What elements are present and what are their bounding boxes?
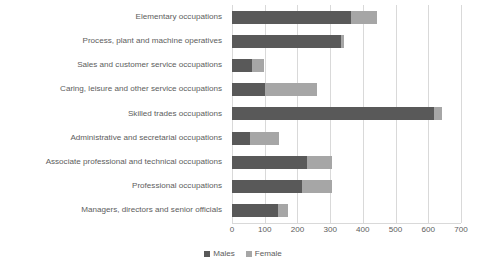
bar-segment-female[interactable] xyxy=(252,59,264,72)
x-axis-tick-labels: 0100200300400500600700 xyxy=(232,225,461,239)
bar-track xyxy=(232,59,461,72)
bar-segment-males[interactable] xyxy=(232,11,351,24)
category-label: Process, plant and machine operatives xyxy=(83,29,222,53)
plot-area xyxy=(232,5,461,223)
bar-track xyxy=(232,11,461,24)
bar-segment-males[interactable] xyxy=(232,35,341,48)
x-tick-label-100: 100 xyxy=(258,225,272,234)
x-tick-label-600: 600 xyxy=(422,225,436,234)
bar-track xyxy=(232,180,461,193)
bar-segment-female[interactable] xyxy=(302,180,332,193)
x-tick-label-400: 400 xyxy=(356,225,370,234)
bar-segment-female[interactable] xyxy=(278,204,288,217)
bar-row xyxy=(232,150,461,174)
bar-track xyxy=(232,107,461,120)
bar-row xyxy=(232,126,461,150)
bar-row xyxy=(232,78,461,102)
x-tick-label-700: 700 xyxy=(454,225,468,234)
bar-row xyxy=(232,175,461,199)
x-axis-line xyxy=(232,223,461,224)
category-label: Professional occupations xyxy=(132,175,222,199)
bar-segment-female[interactable] xyxy=(351,11,377,24)
bar-segment-males[interactable] xyxy=(232,156,307,169)
legend-item-males[interactable]: Males xyxy=(204,249,235,258)
x-tick-label-200: 200 xyxy=(291,225,305,234)
bar-row xyxy=(232,29,461,53)
category-axis-labels: Managers, directors and senior officials… xyxy=(0,5,228,223)
legend-label: Males xyxy=(213,249,235,258)
bar-track xyxy=(232,204,461,217)
bar-segment-males[interactable] xyxy=(232,180,302,193)
legend-label: Female xyxy=(255,249,282,258)
bar-track xyxy=(232,35,461,48)
bar-segment-males[interactable] xyxy=(232,107,434,120)
bar-row xyxy=(232,199,461,223)
category-label: Managers, directors and senior officials xyxy=(81,199,222,223)
bar-track xyxy=(232,156,461,169)
bar-segment-males[interactable] xyxy=(232,83,265,96)
bar-segment-female[interactable] xyxy=(341,35,344,48)
category-label: Sales and customer service occupations xyxy=(77,53,222,77)
bar-segment-female[interactable] xyxy=(265,83,317,96)
x-tick-label-500: 500 xyxy=(389,225,403,234)
female-swatch xyxy=(246,251,252,257)
x-tick-label-300: 300 xyxy=(323,225,337,234)
stacked-bar-chart: Managers, directors and senior officials… xyxy=(0,0,486,273)
x-tick-label-0: 0 xyxy=(230,225,235,234)
category-label: Elementary occupations xyxy=(136,5,222,29)
bar-segment-males[interactable] xyxy=(232,204,278,217)
legend-item-female[interactable]: Female xyxy=(246,249,282,258)
bar-segment-female[interactable] xyxy=(250,132,279,145)
bar-segment-males[interactable] xyxy=(232,59,252,72)
bar-row xyxy=(232,5,461,29)
bar-track xyxy=(232,132,461,145)
category-label: Administrative and secretarial occupatio… xyxy=(70,126,222,150)
bar-rows xyxy=(232,5,461,223)
category-label: Associate professional and technical occ… xyxy=(46,150,222,174)
bar-row xyxy=(232,53,461,77)
category-label: Skilled trades occupations xyxy=(128,102,222,126)
bar-segment-female[interactable] xyxy=(434,107,442,120)
category-label: Caring, leisure and other service occupa… xyxy=(60,78,222,102)
gridline-700 xyxy=(461,5,462,223)
males-swatch xyxy=(204,251,210,257)
bar-segment-female[interactable] xyxy=(307,156,332,169)
bar-segment-males[interactable] xyxy=(232,132,250,145)
chart-legend: MalesFemale xyxy=(0,249,486,258)
bar-row xyxy=(232,102,461,126)
bar-track xyxy=(232,83,461,96)
